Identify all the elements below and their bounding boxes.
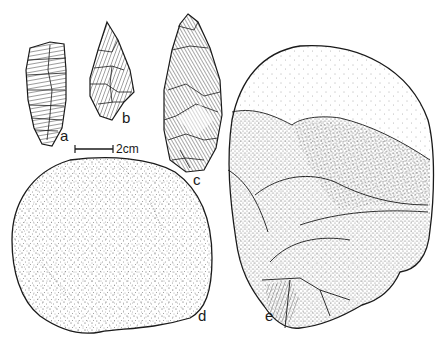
label-d: d [198,308,206,323]
scale-bar-label: 2cm [116,143,139,155]
artifact-e [228,46,434,329]
artifact-d [12,158,212,333]
scale-bar [75,145,113,153]
artifact-c [164,14,222,172]
label-e: e [265,308,273,323]
label-b: b [122,110,130,125]
artifact-figure [0,0,440,342]
label-c: c [193,172,201,187]
artifact-b [90,22,134,120]
label-a: a [60,128,68,143]
